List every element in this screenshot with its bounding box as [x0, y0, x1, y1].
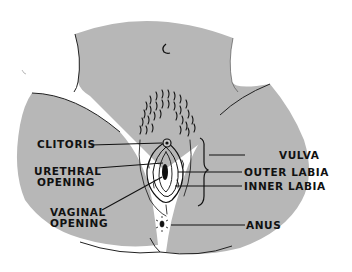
- label-inner-labia: INNER LABIA: [244, 181, 326, 192]
- label-vaginal-opening: VAGINAL OPENING: [50, 207, 104, 229]
- label-outer-labia: OUTER LABIA: [244, 167, 329, 178]
- label-vaginal-opening-line2: OPENING: [50, 218, 104, 229]
- label-clitoris: CLITORIS: [37, 139, 96, 150]
- label-urethral-opening-line2: OPENING: [34, 177, 98, 188]
- vaginal-opening-shape: [162, 164, 168, 180]
- label-urethral-opening: URETHRAL OPENING: [34, 166, 98, 188]
- anus-shape: [156, 216, 168, 232]
- anatomy-illustration: [0, 0, 352, 272]
- label-vulva: VULVA: [279, 150, 319, 161]
- label-anus: ANUS: [246, 220, 281, 231]
